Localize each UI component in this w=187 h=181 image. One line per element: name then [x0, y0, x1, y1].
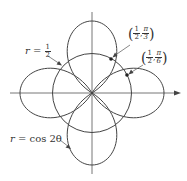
rose-label: r = cos 2θ — [10, 134, 62, 144]
point-pi6-dot — [125, 73, 129, 77]
point-pi6-label: (12,π6) — [141, 50, 168, 65]
circle-label-lhs: r — [25, 45, 30, 56]
rose-label-rhs: cos 2θ — [30, 133, 62, 144]
fraction-den: 2 — [45, 52, 51, 59]
polar-figure — [0, 0, 187, 181]
leader-arrow-icon — [57, 61, 63, 66]
axes — [10, 12, 181, 174]
leader-lines — [48, 45, 143, 149]
point-pi3-label: (12,π3) — [128, 26, 155, 41]
rose-label-lhs: r — [10, 133, 15, 144]
leader-arrow-icon — [129, 70, 134, 75]
rose-label-eq: = — [18, 133, 26, 144]
paren-close: ) — [149, 26, 154, 42]
circle-label-eq: = — [33, 45, 41, 56]
circle-label-fraction: 12 — [45, 44, 51, 59]
point-pi3-dot — [109, 57, 113, 61]
paren-close: ) — [162, 50, 167, 66]
circle-label: r = 12 — [25, 44, 51, 59]
x-axis-arrow-icon — [174, 91, 181, 96]
